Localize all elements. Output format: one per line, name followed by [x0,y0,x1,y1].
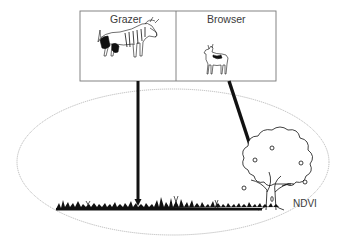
ndvi-label: NDVI [293,198,317,209]
grazer-arrow [135,81,142,206]
panel-label-grazer: Grazer [110,13,142,25]
panel-label-browser: Browser [207,13,246,25]
browser-arrow [229,81,252,151]
diagram-canvas [0,0,345,247]
grass-icon [56,196,279,211]
